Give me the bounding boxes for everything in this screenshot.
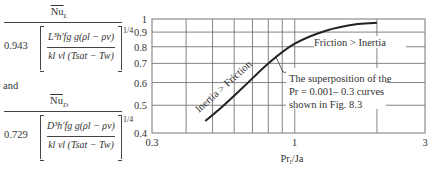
y-tick-label: 1: [142, 14, 147, 25]
annotation-superposition-line3: shown in Fig. 8.3: [289, 99, 362, 110]
x-tick-label: 1: [292, 137, 297, 148]
y-tick-label: 0.8: [134, 42, 147, 53]
x-tick-label: 0.3: [145, 137, 158, 148]
x-axis-label: Prl/Ja: [281, 153, 304, 166]
annotation-superposition-line2: Pr = 0.001– 0.3 curves: [289, 86, 384, 97]
chart: 0.40.50.60.70.80.91 0.313 Friction > Ine…: [0, 0, 433, 171]
y-tick-label: 0.6: [134, 78, 147, 89]
y-tick-label: 0.9: [134, 27, 147, 38]
y-tick-label: 0.5: [134, 100, 147, 111]
annotation-superposition-line1: The superposition of the: [289, 73, 392, 84]
y-tick-label: 0.7: [134, 58, 147, 69]
label-friction-inertia: Friction > Inertia: [314, 37, 386, 48]
y-tick-labels: 0.40.50.60.70.80.91: [134, 14, 148, 139]
x-tick-label: 3: [422, 137, 427, 148]
x-tick-labels: 0.313: [145, 137, 427, 148]
